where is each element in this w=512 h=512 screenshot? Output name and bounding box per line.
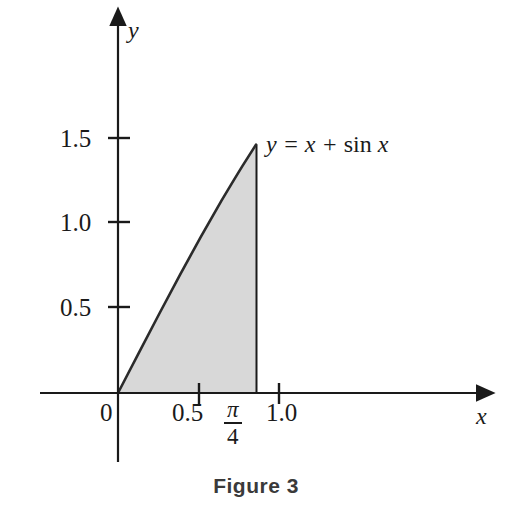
equation-lhs: y = x + bbox=[266, 131, 344, 157]
x-axis-tick-label-1.0: 1.0 bbox=[266, 400, 297, 425]
y-axis-tick-label-1.5: 1.5 bbox=[60, 126, 91, 151]
x-axis-tick-label-0.5: 0.5 bbox=[172, 400, 203, 425]
fraction-numerator: π bbox=[224, 398, 242, 422]
plot-canvas bbox=[0, 0, 512, 512]
x-axis-label: x bbox=[476, 404, 487, 428]
curve-equation-label: y = x + sin x bbox=[266, 132, 388, 156]
x-axis-tick-label-pi-over-4: π 4 bbox=[224, 398, 242, 448]
y-axis-tick-label-1.0: 1.0 bbox=[60, 210, 91, 235]
figure-caption: Figure 3 bbox=[0, 474, 512, 498]
y-axis-label: y bbox=[128, 18, 139, 42]
y-axis-tick-label-0.5: 0.5 bbox=[60, 295, 91, 320]
origin-label: 0 bbox=[100, 400, 113, 425]
equation-sin-function: sin bbox=[344, 131, 372, 157]
equation-argument: x bbox=[372, 131, 389, 157]
figure-container: 1.5 1.0 0.5 0 0.5 π 4 1.0 y x y = x + si… bbox=[0, 0, 512, 512]
fraction-denominator: 4 bbox=[224, 424, 242, 448]
